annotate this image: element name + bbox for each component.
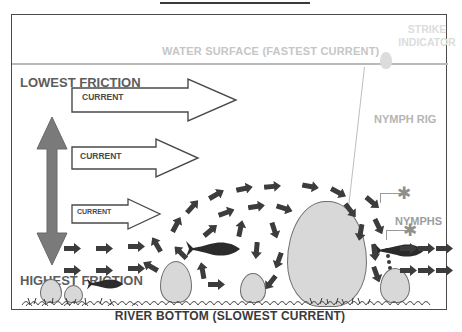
turbulence-arrow-icon: [368, 265, 384, 285]
nymph-rig-label: NYMPH RIG: [374, 113, 436, 125]
turbulence-arrow-icon: [208, 279, 225, 290]
strike-indicator-bobber-icon: [380, 52, 392, 69]
turbulence-arrow-icon: [217, 204, 237, 220]
turbulence-arrow-icon: [235, 181, 254, 195]
flow-arrow-icon: [418, 265, 435, 276]
split-shot-icon: [387, 260, 391, 264]
turbulence-arrow-icon: [264, 180, 282, 192]
top-rule: [160, 2, 310, 4]
current-arrow-large-label: CURRENT: [82, 92, 124, 102]
turbulence-arrow-icon: [270, 251, 286, 271]
turbulence-arrow-icon: [370, 216, 387, 236]
turbulence-arrow-icon: [301, 180, 320, 194]
flow-arrow-icon: [436, 265, 453, 276]
trout-silhouette-icon: [85, 277, 125, 291]
turbulence-arrow-icon: [267, 221, 283, 241]
turbulence-arrow-icon: [200, 221, 220, 240]
turbulence-arrow-icon: [247, 200, 265, 213]
current-arrow-small-label: CURRENT: [77, 208, 111, 215]
turbulence-arrow-icon: [183, 197, 203, 217]
current-arrow-large: CURRENT: [70, 77, 238, 123]
flow-arrow-icon: [96, 265, 113, 276]
turbulence-arrow-icon: [328, 184, 348, 202]
turbulence-arrow-icon: [354, 223, 368, 242]
nymph-fly-icon: ✱: [396, 186, 412, 202]
gravel-bed-icon: [12, 291, 448, 309]
strike-indicator-label: STRIKE INDICATOR: [391, 23, 462, 49]
flow-arrow-icon: [64, 243, 81, 254]
trout-silhouette-icon: [184, 239, 242, 259]
turbulence-arrow-icon: [275, 201, 295, 217]
flow-arrow-icon: [128, 263, 145, 274]
diagram-frame: WATER SURFACE (FASTEST CURRENT) STRIKE I…: [11, 14, 447, 310]
turbulence-arrow-icon: [206, 185, 226, 203]
turbulence-arrow-icon: [147, 234, 165, 254]
turbulence-arrow-icon: [250, 242, 262, 260]
diagram-canvas: WATER SURFACE (FASTEST CURRENT) STRIKE I…: [0, 0, 462, 332]
turbulence-arrow-icon: [233, 219, 247, 238]
water-surface-label: WATER SURFACE (FASTEST CURRENT): [162, 45, 372, 57]
flow-arrow-icon: [128, 241, 145, 252]
flow-arrow-icon: [400, 265, 417, 276]
flow-arrow-icon: [400, 243, 417, 254]
turbulence-arrow-icon: [168, 214, 186, 234]
nymphs-label: NYMPHS: [395, 215, 442, 227]
current-arrow-small: CURRENT: [70, 197, 162, 231]
current-arrow-medium-label: CURRENT: [80, 151, 122, 161]
current-arrow-medium: CURRENT: [70, 137, 200, 179]
river-bottom-label: RIVER BOTTOM (SLOWEST CURRENT): [12, 309, 448, 323]
turbulence-arrow-icon: [196, 261, 210, 280]
flow-arrow-icon: [418, 243, 435, 254]
flow-arrow-icon: [64, 265, 81, 276]
flow-arrow-icon: [96, 243, 113, 254]
flow-arrow-icon: [436, 243, 453, 254]
turbulence-arrow-icon: [368, 243, 381, 261]
